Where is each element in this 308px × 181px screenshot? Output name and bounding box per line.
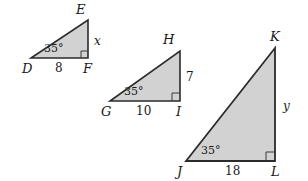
angle-label-def: 35° [44, 43, 64, 54]
triangle-jkl [186, 48, 275, 161]
triangle-ghi [110, 51, 180, 101]
side-label-jl: 18 [225, 165, 240, 177]
vertex-label-k: K [270, 30, 280, 43]
vertex-label-e: E [76, 3, 86, 16]
geometry-figure: D E F 35° 8 x G H I 35° 10 7 J K L 35° 1… [0, 0, 308, 181]
vertex-label-h: H [163, 33, 174, 46]
side-label-ef: x [94, 35, 101, 47]
side-label-df: 8 [55, 62, 63, 74]
vertex-label-j: J [177, 165, 182, 178]
vertex-label-i: I [176, 105, 181, 118]
triangle-ghi-shape [110, 51, 180, 101]
vertex-label-g: G [101, 105, 111, 118]
side-label-hi: 7 [186, 71, 194, 83]
side-label-kl: y [283, 100, 290, 112]
vertex-label-l: L [271, 165, 280, 178]
vertex-label-f: F [83, 62, 92, 75]
triangle-jkl-shape [186, 48, 275, 161]
vertex-label-d: D [22, 62, 32, 75]
angle-label-ghi: 35° [124, 86, 144, 97]
triangles-svg [0, 0, 308, 181]
side-label-gi: 10 [136, 105, 151, 117]
angle-label-jkl: 35° [201, 145, 221, 156]
